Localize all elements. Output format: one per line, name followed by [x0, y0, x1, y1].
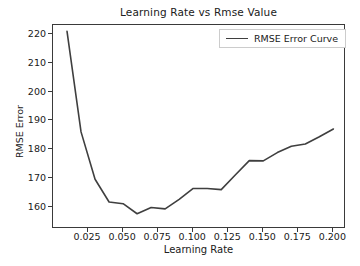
- chart-legend: RMSE Error Curve: [219, 29, 346, 48]
- y-tick-label: 190: [12, 114, 46, 125]
- x-tick-mark: [122, 228, 123, 232]
- chart-title: Learning Rate vs Rmse Value: [52, 6, 345, 18]
- x-tick-mark: [262, 228, 263, 232]
- x-tick-mark: [297, 228, 298, 232]
- x-tick-mark: [87, 228, 88, 232]
- series-rmse-error-curve: [53, 25, 345, 228]
- y-tick-label: 180: [12, 143, 46, 154]
- y-tick-label: 220: [12, 28, 46, 39]
- y-tick-label: 210: [12, 56, 46, 67]
- y-tick-label: 160: [12, 200, 46, 211]
- plot-area: [52, 24, 345, 228]
- legend-line-swatch: [226, 38, 248, 39]
- y-axis-label: RMSE Error: [14, 82, 25, 182]
- line-rmse-error-curve: [67, 31, 333, 213]
- x-tick-label: 0.200: [309, 231, 355, 242]
- x-tick-mark: [192, 228, 193, 232]
- x-tick-mark: [332, 228, 333, 232]
- legend-label-rmse-error-curve: RMSE Error Curve: [254, 33, 338, 44]
- y-tick-label: 200: [12, 85, 46, 96]
- x-tick-mark: [157, 228, 158, 232]
- y-tick-label: 170: [12, 171, 46, 182]
- x-tick-mark: [227, 228, 228, 232]
- x-axis-label: Learning Rate: [52, 244, 345, 255]
- chart-figure: Learning Rate vs Rmse Value RMSE Error L…: [0, 0, 360, 266]
